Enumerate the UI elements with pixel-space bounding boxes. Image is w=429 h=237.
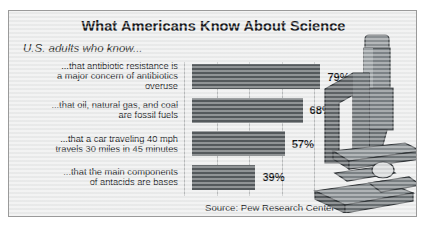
bar <box>192 98 303 123</box>
infographic-canvas: What Americans Know About Science U.S. a… <box>0 0 429 237</box>
microscope-icon <box>309 33 417 213</box>
bar-chart: ...that antibiotic resistance isa major … <box>23 62 327 196</box>
bar-value-label: 39% <box>262 171 284 183</box>
bar-category-label: ...that a car traveling 40 mphtravels 30… <box>23 133 178 154</box>
bar <box>192 131 285 156</box>
chart-row: ...that antibiotic resistance isa major … <box>23 64 327 89</box>
bar <box>192 64 320 89</box>
bar-category-label: ...that the main componentsof antacids a… <box>23 167 178 188</box>
infographic-panel: What Americans Know About Science U.S. a… <box>8 10 417 217</box>
chart-subtitle: U.S. adults who know... <box>23 42 143 54</box>
bar <box>192 165 255 190</box>
chart-row: ...that oil, natural gas, and coalare fo… <box>23 98 327 123</box>
chart-row: ...that a car traveling 40 mphtravels 30… <box>23 131 327 156</box>
bar-category-label: ...that oil, natural gas, and coalare fo… <box>23 100 178 121</box>
bar-category-label: ...that antibiotic resistance isa major … <box>23 61 178 92</box>
chart-row: ...that the main componentsof antacids a… <box>23 165 327 190</box>
page-title: What Americans Know About Science <box>9 18 417 34</box>
